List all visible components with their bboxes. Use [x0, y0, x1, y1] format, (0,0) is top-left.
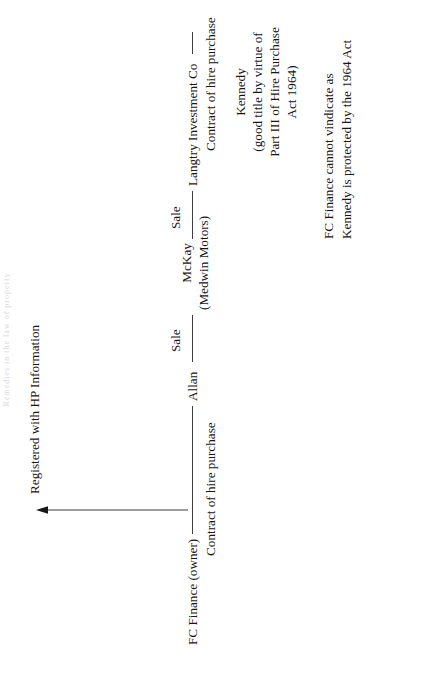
node-mckay: McKay (Medwin Motors): [178, 216, 212, 310]
node-allan: Allan: [185, 372, 201, 401]
edge-line-mckay-to-langtry: [192, 191, 193, 239]
edge-label-contract-of-hire-purchase-2: Contract of hire purchase: [203, 17, 219, 151]
node-kennedy-name: Kennedy: [232, 0, 249, 187]
conclusion-note: FC Finance cannot vindicate as Kennedy i…: [320, 40, 356, 239]
conclusion-note-line-2: Kennedy is protected by the 1964 Act: [338, 40, 356, 239]
conclusion-note-line-1: FC Finance cannot vindicate as: [320, 40, 338, 239]
edge-label-contract-of-hire-purchase-1: Contract of hire purchase: [203, 422, 219, 556]
node-mckay-trading-name: (Medwin Motors): [195, 216, 212, 310]
edge-label-sale-2: Sale: [168, 206, 184, 229]
scanned-page: Remedies in the law of property FC Finan…: [0, 0, 433, 679]
node-kennedy-note-line-1: (good title by virtue of: [249, 0, 266, 187]
page-running-header: Remedies in the law of property: [2, 0, 11, 679]
node-kennedy-note-line-2: Part III of Hire Purchase: [266, 0, 283, 187]
edge-line-fc-to-allan: [192, 406, 193, 534]
node-kennedy: Kennedy (good title by virtue of Part II…: [232, 0, 301, 187]
edge-line-langtry-to-kennedy: [192, 32, 193, 54]
diagram-stage: Remedies in the law of property FC Finan…: [0, 0, 433, 679]
node-fc-finance: FC Finance (owner): [185, 539, 201, 645]
node-kennedy-note-line-3: Act 1964): [283, 0, 300, 187]
node-langtry-investment-co: Langtry Investment Co: [185, 64, 201, 186]
edge-label-sale-1: Sale: [168, 329, 184, 352]
node-registered-hp-information: Registered with HP Information: [27, 325, 43, 494]
edge-line-allan-to-mckay: [192, 315, 193, 362]
arrow-fc-to-registered: [36, 505, 188, 515]
